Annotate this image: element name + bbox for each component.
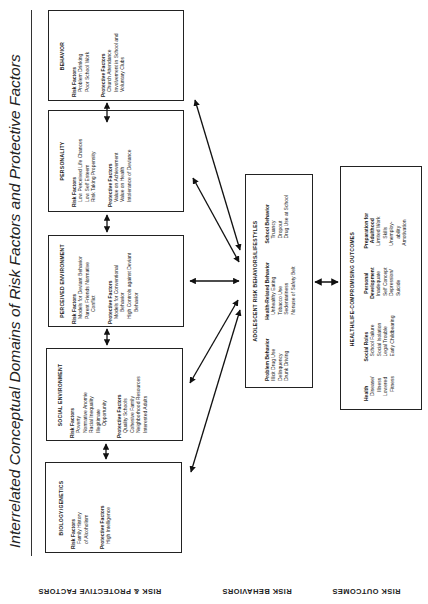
arrow-behavior-to-behaviors xyxy=(195,100,240,250)
arrow-biology-to-behaviors xyxy=(191,310,240,472)
connector-arrows xyxy=(0,0,428,604)
arrow-personality-to-behaviors xyxy=(193,178,239,262)
